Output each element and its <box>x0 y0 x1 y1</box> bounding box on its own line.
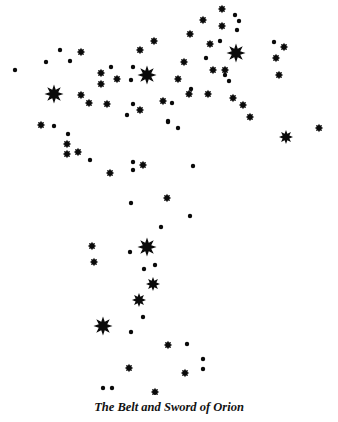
star-icon <box>189 87 193 91</box>
star-icon <box>37 121 45 129</box>
star-icon <box>103 100 111 108</box>
star-icon <box>185 342 189 346</box>
star-icon <box>58 48 62 52</box>
star-icon <box>163 194 171 202</box>
star-icon <box>101 386 105 390</box>
star-icon <box>128 250 132 254</box>
star-icon <box>153 263 157 267</box>
star-icon <box>227 44 246 63</box>
star-icon <box>206 40 214 48</box>
star-icon <box>44 60 48 64</box>
star-icon <box>13 68 17 72</box>
star-icon <box>131 65 135 69</box>
star-icon <box>204 90 212 98</box>
star-icon <box>201 357 205 361</box>
star-icon <box>227 79 231 83</box>
star-icon <box>77 48 85 56</box>
star-icon <box>204 56 208 60</box>
star-icon <box>180 58 188 66</box>
star-icon <box>235 28 239 32</box>
star-icon <box>191 164 195 168</box>
star-icon <box>97 69 105 77</box>
star-icon <box>185 90 193 98</box>
star-icon <box>131 168 135 172</box>
star-icon <box>90 258 98 266</box>
star-icon <box>138 238 157 257</box>
star-icon <box>88 242 96 250</box>
star-icon <box>66 132 70 136</box>
star-icon <box>239 101 247 109</box>
star-icon <box>139 161 147 169</box>
star-icon <box>275 71 283 79</box>
star-icon <box>201 367 205 371</box>
star-icon <box>88 158 92 162</box>
star-icon <box>199 16 207 24</box>
star-icon <box>237 19 241 23</box>
star-icon <box>315 124 323 132</box>
star-icon <box>280 43 288 51</box>
star-icon <box>125 113 129 117</box>
star-icon <box>218 22 226 30</box>
star-icon <box>63 150 71 158</box>
star-icon <box>233 13 237 17</box>
star-icon <box>159 97 167 105</box>
star-icon <box>181 369 189 377</box>
star-icon <box>151 388 159 395</box>
star-icon <box>131 160 135 164</box>
star-icon <box>272 54 280 62</box>
star-chart <box>0 0 338 395</box>
star-icon <box>146 277 160 291</box>
star-icon <box>77 91 85 99</box>
star-icon <box>246 113 254 121</box>
star-icon <box>159 225 163 229</box>
star-icon <box>142 267 146 271</box>
star-icon <box>218 39 222 43</box>
star-icon <box>110 386 114 390</box>
star-icon <box>129 330 133 334</box>
star-icon <box>279 130 293 144</box>
star-icon <box>166 120 170 124</box>
star-icon <box>129 78 133 82</box>
star-icon <box>85 99 93 107</box>
star-icon <box>106 169 114 177</box>
star-icon <box>223 73 227 77</box>
star-icon <box>176 126 180 130</box>
star-icon <box>45 85 64 104</box>
star-icon <box>68 59 72 63</box>
star-icon <box>52 124 56 128</box>
star-icon <box>164 341 172 349</box>
star-icon <box>209 66 217 74</box>
star-icon <box>141 315 145 319</box>
star-icon <box>218 5 226 13</box>
star-icon <box>150 37 158 45</box>
star-icon <box>74 148 82 156</box>
star-icon <box>125 364 133 372</box>
star-icon <box>113 75 121 83</box>
star-icon <box>272 40 276 44</box>
star-icon <box>131 102 135 106</box>
star-icon <box>138 66 157 85</box>
star-icon <box>94 317 113 336</box>
star-icon <box>186 30 194 38</box>
star-icon <box>174 75 182 83</box>
star-icon <box>188 214 192 218</box>
star-icon <box>136 46 144 54</box>
star-icon <box>63 140 71 148</box>
figure-caption: The Belt and Sword of Orion <box>0 400 338 415</box>
star-icon <box>109 65 113 69</box>
star-icon <box>129 201 133 205</box>
star-icon <box>132 293 146 307</box>
star-icon <box>170 101 174 105</box>
star-icon <box>229 94 237 102</box>
star-icon <box>136 106 144 114</box>
star-icon <box>97 80 105 88</box>
